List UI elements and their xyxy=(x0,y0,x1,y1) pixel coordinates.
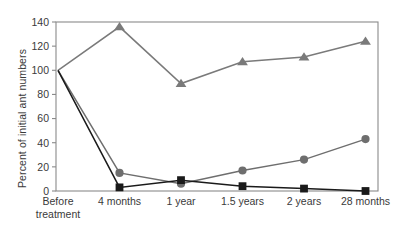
x-tick-label: 1.5 years xyxy=(221,195,264,207)
data-point-triangle xyxy=(360,37,371,45)
data-point-square xyxy=(300,185,308,193)
data-point-triangle xyxy=(114,22,125,30)
y-axis-label: Percent of initial ant numbers xyxy=(16,49,28,188)
x-tick-label: 4 months xyxy=(98,195,141,207)
plot-frame xyxy=(56,22,378,191)
data-point-circle xyxy=(238,166,246,174)
series-line-sustained-treatment xyxy=(58,70,366,191)
data-point-circle xyxy=(300,156,308,164)
ant-numbers-line-chart: Percent of initial ant numbers 020406080… xyxy=(0,0,393,232)
y-tick-label: 120 xyxy=(31,40,49,52)
y-tick-label: 40 xyxy=(37,137,49,149)
x-tick-label: 28 months xyxy=(341,195,390,207)
y-tick-label: 140 xyxy=(31,16,49,28)
data-point-circle xyxy=(115,169,123,177)
y-axis-ticks: 020406080100120140 xyxy=(31,16,56,197)
x-tick-label: treatment xyxy=(36,208,80,220)
plot-border xyxy=(56,22,378,191)
series-markers-group xyxy=(114,22,371,195)
data-point-circle xyxy=(361,135,369,143)
data-point-square xyxy=(362,187,370,195)
y-tick-label: 100 xyxy=(31,64,49,76)
data-point-square xyxy=(177,176,185,184)
chart-canvas: 020406080100120140 Beforetreatment4 mont… xyxy=(0,0,393,232)
x-tick-label: 1 year xyxy=(166,195,196,207)
x-tick-label: 2 years xyxy=(287,195,321,207)
x-tick-label: Before xyxy=(43,195,74,207)
series-lines-group xyxy=(58,27,366,191)
x-axis-ticks: Beforetreatment4 months1 year1.5 years2 … xyxy=(36,195,390,220)
y-axis-label-container: Percent of initial ant numbers xyxy=(0,0,24,200)
series-line-recovering-treatment xyxy=(58,70,366,183)
series-line-untreated-control xyxy=(58,27,366,84)
data-point-square xyxy=(239,182,247,190)
y-tick-label: 60 xyxy=(37,112,49,124)
y-tick-label: 20 xyxy=(37,161,49,173)
y-tick-label: 80 xyxy=(37,88,49,100)
data-point-square xyxy=(116,183,124,191)
